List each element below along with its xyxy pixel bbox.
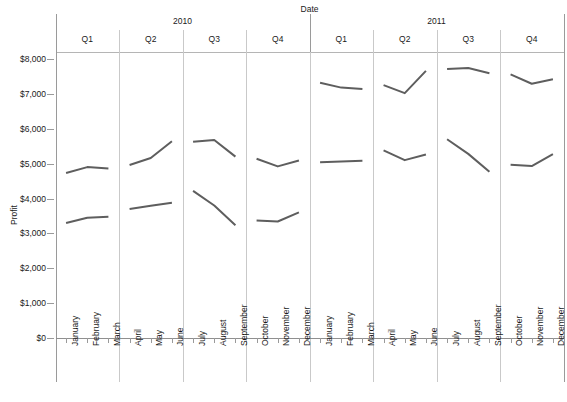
x-tick-label-21: October: [514, 316, 524, 346]
y-tick-mark-7: [47, 94, 54, 95]
panel-quarter-label-6: Q3: [437, 34, 501, 44]
y-tick-label-4: $4,000: [0, 194, 46, 204]
x-tick-mark-7: [214, 338, 215, 343]
series-lower-segment-7: [511, 154, 553, 166]
x-tick-label-19: August: [472, 320, 482, 346]
series-lower-segment-6: [447, 139, 489, 171]
x-tick-mark-5: [172, 338, 173, 343]
x-tick-mark-23: [553, 338, 554, 343]
panel-quarter-label-2: Q3: [183, 34, 247, 44]
x-tick-mark-1: [87, 338, 88, 343]
series-upper-segment-3: [257, 159, 299, 167]
panel-separator-0: [56, 52, 57, 382]
x-tick-mark-2: [108, 338, 109, 343]
x-tick-mark-14: [362, 338, 363, 343]
x-tick-mark-19: [468, 338, 469, 343]
x-tick-label-3: April: [133, 329, 143, 346]
year-separator-mid: [310, 14, 311, 52]
y-tick-label-7: $7,000: [0, 89, 46, 99]
x-tick-mark-10: [278, 338, 279, 343]
y-tick-mark-2: [47, 268, 54, 269]
quarter-separator-header-7: [500, 30, 501, 52]
x-tick-label-8: September: [239, 304, 249, 346]
y-tick-mark-6: [47, 129, 54, 130]
x-tick-label-18: July: [451, 331, 461, 346]
quarter-separator-header-6: [437, 30, 438, 52]
series-lower-segment-5: [384, 150, 426, 160]
x-tick-mark-12: [320, 338, 321, 343]
x-tick-mark-9: [257, 338, 258, 343]
panel-year-label: 2010: [56, 16, 310, 26]
x-tick-label-4: May: [154, 330, 164, 346]
quarter-separator-header-1: [119, 30, 120, 52]
x-tick-mark-21: [511, 338, 512, 343]
x-axis-title: Date: [301, 4, 319, 14]
series-upper-segment-2: [193, 140, 235, 157]
x-tick-mark-15: [384, 338, 385, 343]
y-tick-mark-4: [47, 199, 54, 200]
panel-year-label: 2011: [310, 16, 564, 26]
series-lower-segment-4: [320, 161, 362, 162]
x-tick-label-17: June: [429, 328, 439, 346]
x-tick-label-1: February: [91, 312, 101, 346]
y-tick-mark-5: [47, 164, 54, 165]
x-tick-label-7: August: [218, 320, 228, 346]
y-tick-mark-0: [47, 338, 54, 339]
chart-container: Date Profit 20102011Q1Q2Q3Q4Q1Q2Q3Q4$0$1…: [0, 0, 567, 402]
series-upper-segment-7: [511, 74, 553, 83]
quarter-separator-header-5: [373, 30, 374, 52]
series-upper-segment-0: [66, 167, 108, 173]
x-tick-label-0: January: [70, 316, 80, 346]
x-tick-mark-4: [151, 338, 152, 343]
y-tick-label-1: $1,000: [0, 298, 46, 308]
x-tick-mark-20: [489, 338, 490, 343]
y-tick-label-5: $5,000: [0, 159, 46, 169]
series-lower-segment-3: [257, 212, 299, 221]
x-tick-mark-6: [193, 338, 194, 343]
panel-quarter-label-0: Q1: [56, 34, 120, 44]
series-lower-segment-1: [130, 203, 172, 209]
x-tick-label-13: February: [345, 312, 355, 346]
y-tick-mark-8: [47, 59, 54, 60]
x-tick-label-12: January: [324, 316, 334, 346]
series-lower-segment-0: [66, 217, 108, 223]
panel-quarter-label-1: Q2: [119, 34, 183, 44]
y-tick-label-0: $0: [0, 333, 46, 343]
x-tick-mark-17: [426, 338, 427, 343]
x-tick-mark-16: [405, 338, 406, 343]
x-tick-label-10: November: [281, 307, 291, 346]
y-axis-title: Profit: [9, 205, 19, 225]
x-tick-mark-0: [66, 338, 67, 343]
x-tick-label-20: September: [493, 304, 503, 346]
x-tick-mark-3: [130, 338, 131, 343]
y-tick-mark-1: [47, 303, 54, 304]
x-tick-mark-11: [299, 338, 300, 343]
panel-quarter-label-5: Q2: [373, 34, 437, 44]
year-separator-right: [564, 14, 565, 52]
y-tick-label-3: $3,000: [0, 228, 46, 238]
x-tick-label-22: November: [535, 307, 545, 346]
x-tick-label-9: October: [260, 316, 270, 346]
y-tick-label-8: $8,000: [0, 54, 46, 64]
panel-quarter-label-4: Q1: [310, 34, 374, 44]
x-tick-label-14: March: [366, 322, 376, 346]
quarter-separator-header-2: [183, 30, 184, 52]
y-tick-mark-3: [47, 233, 54, 234]
series-lower-segment-2: [193, 191, 235, 226]
x-tick-label-16: May: [408, 330, 418, 346]
x-tick-mark-18: [447, 338, 448, 343]
series-upper-segment-5: [384, 71, 426, 93]
y-tick-label-2: $2,000: [0, 263, 46, 273]
x-tick-label-11: December: [302, 307, 312, 346]
y-tick-label-6: $6,000: [0, 124, 46, 134]
x-tick-label-6: July: [197, 331, 207, 346]
x-tick-mark-22: [532, 338, 533, 343]
x-tick-label-23: December: [556, 307, 566, 346]
quarter-separator-header-3: [246, 30, 247, 52]
series-upper-segment-6: [447, 68, 489, 73]
panel-quarter-label-3: Q4: [246, 34, 310, 44]
x-tick-label-5: June: [175, 328, 185, 346]
x-tick-mark-13: [341, 338, 342, 343]
x-tick-label-2: March: [112, 322, 122, 346]
x-tick-label-15: April: [387, 329, 397, 346]
